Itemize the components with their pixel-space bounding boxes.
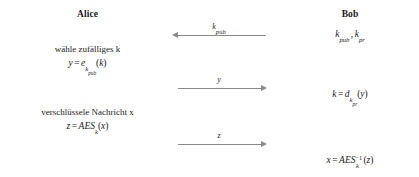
- party-title-alice: Alice: [0, 9, 175, 19]
- arrow-line-z: [178, 144, 262, 145]
- bob-keypair-formula: kpub,kpr: [285, 29, 415, 39]
- party-title-bob: Bob: [285, 9, 415, 19]
- alice-step-encrypt-message-text: verschlüssele Nachricht x: [0, 107, 175, 117]
- bob-decrypt-session-key-formula: k=dkpr(y): [285, 89, 415, 100]
- arrow-head-right-icon: [261, 85, 267, 91]
- alice-step-choose-random-k-text: wähle zufälliges k: [0, 44, 175, 54]
- bob-decrypt-message-formula: x=AES−1k(z): [285, 155, 415, 165]
- arrow-line-kpub: [178, 35, 266, 36]
- protocol-diagram: Alice Bob kpub,kpr kpub wähle zufälliges…: [0, 0, 419, 177]
- alice-step-choose-random-k-formula: y=ekpub(k): [0, 58, 175, 69]
- message-label-z: z: [172, 131, 266, 140]
- alice-step-encrypt-message-formula: z=AESk(x): [0, 121, 175, 131]
- arrow-head-right-icon: [261, 141, 267, 147]
- message-label-kpub: kpub: [172, 22, 266, 31]
- bob-key-pub: kpub: [335, 29, 349, 39]
- arrow-line-y: [178, 88, 262, 89]
- bob-key-pr: kpr: [355, 29, 365, 39]
- message-label-y: y: [172, 75, 266, 84]
- arrow-head-left-icon: [172, 32, 178, 38]
